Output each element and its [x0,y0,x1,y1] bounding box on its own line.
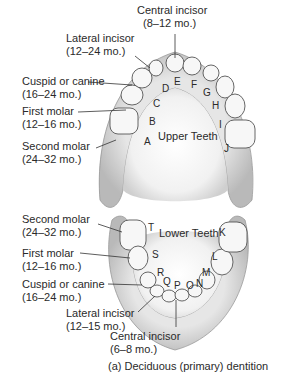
tooth-S [128,246,148,270]
label-upper-central-incisor: Central incisor (8–12 mo.) [137,4,207,30]
letter-I: I [219,120,222,130]
letter-J: J [224,144,229,154]
letter-L: L [212,252,218,262]
label-name: Central incisor [137,4,207,17]
letter-A: A [144,137,151,147]
label-name: First molar [22,247,81,260]
letter-S: S [152,250,159,260]
label-age: (8–12 mo.) [137,17,207,30]
label-name: Lateral incisor [66,32,134,45]
tooth-A [110,108,138,134]
label-age: (24–32 mo.) [22,153,90,166]
label-upper-second-molar: Second molar (24–32 mo.) [22,140,90,166]
label-name: Cuspid or canine [22,278,105,291]
letter-D: D [162,84,169,94]
letter-M: M [202,268,210,278]
dentition-illustration [0,0,291,381]
label-age: (24–32 mo.) [22,226,90,239]
letter-N: N [196,279,203,289]
label-name: First molar [22,105,81,118]
label-lower-central-incisor: Central incisor (6–8 mo.) [110,330,180,356]
letter-O: O [186,281,194,291]
figure-caption: (a) Deciduous (primary) dentition [108,360,268,372]
label-age: (16–24 mo.) [22,291,105,304]
letter-K: K [219,228,226,238]
lower-teeth-label: Lower Teeth [159,227,219,239]
tooth-D [149,60,163,76]
label-age: (6–8 mo.) [110,343,180,356]
tooth-C [132,68,152,88]
label-name: Lateral incisor [66,307,134,320]
label-upper-canine: Cuspid or canine (16–24 mo.) [22,75,105,101]
letter-Q: Q [163,277,171,287]
letter-G: G [203,88,211,98]
label-name: Second molar [22,140,90,153]
label-lower-second-molar: Second molar (24–32 mo.) [22,213,90,239]
label-age: (12–24 mo.) [66,45,134,58]
label-age: (16–24 mo.) [22,88,105,101]
letter-B: B [149,117,156,127]
letter-T: T [148,223,154,233]
label-lower-first-molar: First molar (12–16 mo.) [22,247,81,273]
label-name: Second molar [22,213,90,226]
tooth-T [120,220,146,250]
letter-H: H [212,101,219,111]
tooth-G [203,65,219,81]
label-name: Central incisor [110,330,180,343]
label-age: (12–16 mo.) [22,260,81,273]
label-upper-lateral-incisor: Lateral incisor (12–24 mo.) [66,32,134,58]
label-age: (12–16 mo.) [22,118,81,131]
tooth-J [225,120,255,148]
upper-teeth-label: Upper Teeth [158,130,218,142]
label-name: Cuspid or canine [22,75,105,88]
letter-C: C [153,99,160,109]
label-upper-first-molar: First molar (12–16 mo.) [22,105,81,131]
letter-R: R [157,268,164,278]
letter-P: P [174,281,181,291]
tooth-F [183,57,201,75]
letter-F: F [191,80,197,90]
label-lower-canine: Cuspid or canine (16–24 mo.) [22,278,105,304]
letter-E: E [174,77,181,87]
tooth-P [162,290,176,302]
tooth-I [225,94,245,118]
